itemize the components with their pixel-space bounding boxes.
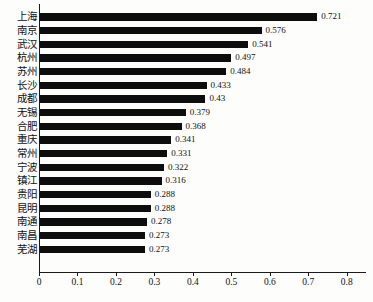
bar: [40, 205, 151, 212]
x-axis-tick: [116, 272, 117, 276]
category-label: 芜湖: [0, 243, 37, 257]
category-label: 镇江: [0, 174, 37, 188]
x-axis-tick-label: 0.4: [173, 277, 213, 287]
category-label: 重庆: [0, 133, 37, 147]
category-label: 昆明: [0, 202, 37, 216]
x-axis-tick: [231, 272, 232, 276]
bar-value-label: 0.322: [168, 161, 188, 175]
category-label: 常州: [0, 147, 37, 161]
bar-row: 宁波0.322: [39, 161, 366, 175]
x-axis-tick-label: 0.3: [134, 277, 174, 287]
bar-value-label: 0.484: [230, 65, 250, 79]
bar-value-label: 0.278: [151, 215, 171, 229]
x-axis-tick: [39, 272, 40, 276]
x-axis-tick-label: 0.1: [57, 277, 97, 287]
bar-value-label: 0.341: [175, 133, 195, 147]
bar: [40, 13, 317, 20]
category-label: 上海: [0, 10, 37, 24]
bar-value-label: 0.331: [171, 147, 191, 161]
x-axis-tick: [77, 272, 78, 276]
x-axis-tick-label: 0.2: [96, 277, 136, 287]
x-axis-tick-label: 0.8: [327, 277, 367, 287]
bar-value-label: 0.497: [235, 51, 255, 65]
bar-row: 南通0.278: [39, 215, 366, 229]
bar-value-label: 0.379: [190, 106, 210, 120]
x-axis-tick: [193, 272, 194, 276]
bar: [40, 177, 162, 184]
bar-value-label: 0.288: [155, 202, 175, 216]
category-label: 苏州: [0, 65, 37, 79]
bar: [40, 150, 167, 157]
category-label: 南昌: [0, 229, 37, 243]
category-label: 杭州: [0, 51, 37, 65]
bar-row: 武汉0.541: [39, 38, 366, 52]
bar-chart: 上海0.721南京0.576武汉0.541杭州0.497苏州0.484长沙0.4…: [0, 0, 373, 302]
bar: [40, 123, 182, 130]
bar-value-label: 0.288: [155, 188, 175, 202]
bar-row: 杭州0.497: [39, 51, 366, 65]
bar: [40, 68, 226, 75]
bar-value-label: 0.368: [186, 120, 206, 134]
bar: [40, 232, 145, 239]
category-label: 宁波: [0, 161, 37, 175]
bar: [40, 246, 145, 253]
bar-row: 南昌0.273: [39, 229, 366, 243]
bar: [40, 82, 207, 89]
bar-row: 昆明0.288: [39, 202, 366, 216]
bar-row: 成都0.43: [39, 92, 366, 106]
bar-value-label: 0.273: [149, 243, 169, 257]
category-label: 贵阳: [0, 188, 37, 202]
category-label: 南京: [0, 24, 37, 38]
x-axis-tick: [154, 272, 155, 276]
bar: [40, 191, 151, 198]
category-label: 成都: [0, 92, 37, 106]
bar-row: 无锡0.379: [39, 106, 366, 120]
category-label: 南通: [0, 215, 37, 229]
bar-row: 贵阳0.288: [39, 188, 366, 202]
bar: [40, 136, 171, 143]
bar: [40, 109, 186, 116]
bar-value-label: 0.576: [266, 24, 286, 38]
x-axis-tick: [347, 272, 348, 276]
x-axis-tick: [308, 272, 309, 276]
bar-row: 镇江0.316: [39, 174, 366, 188]
bar-row: 重庆0.341: [39, 133, 366, 147]
bar-row: 上海0.721: [39, 10, 366, 24]
bar-row: 南京0.576: [39, 24, 366, 38]
bar: [40, 218, 147, 225]
bar: [40, 27, 262, 34]
bar: [40, 95, 205, 102]
plot-area: 上海0.721南京0.576武汉0.541杭州0.497苏州0.484长沙0.4…: [39, 4, 366, 272]
bar-value-label: 0.541: [252, 38, 272, 52]
x-axis-tick-label: 0.5: [211, 277, 251, 287]
x-axis-tick: [270, 272, 271, 276]
category-label: 长沙: [0, 79, 37, 93]
bar-row: 芜湖0.273: [39, 243, 366, 257]
bar-value-label: 0.43: [209, 92, 225, 106]
bar: [40, 164, 164, 171]
bar-row: 常州0.331: [39, 147, 366, 161]
bar-row: 苏州0.484: [39, 65, 366, 79]
category-label: 合肥: [0, 120, 37, 134]
bar-value-label: 0.433: [211, 79, 231, 93]
x-axis-tick-label: 0.6: [250, 277, 290, 287]
x-axis-tick-label: 0.7: [288, 277, 328, 287]
bar: [40, 54, 231, 61]
category-label: 武汉: [0, 38, 37, 52]
category-label: 无锡: [0, 106, 37, 120]
bar-value-label: 0.273: [149, 229, 169, 243]
bar-value-label: 0.721: [321, 10, 341, 24]
bar-row: 合肥0.368: [39, 120, 366, 134]
x-axis-line: [39, 272, 366, 273]
bar-row: 长沙0.433: [39, 79, 366, 93]
bar: [40, 41, 248, 48]
x-axis-tick-label: 0: [19, 277, 59, 287]
bar-value-label: 0.316: [166, 174, 186, 188]
